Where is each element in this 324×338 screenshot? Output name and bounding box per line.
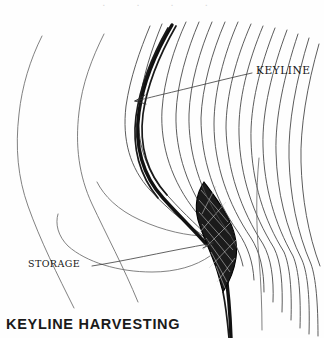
keyline-harvesting-figure: . . . . bbox=[0, 0, 324, 338]
contour-line-right-8 bbox=[276, 34, 309, 334]
annotation-label-keyline: KEYLINE bbox=[256, 64, 311, 76]
storage-leader-line bbox=[92, 243, 213, 266]
figure-caption: KEYLINE HARVESTING bbox=[6, 316, 180, 332]
contour-map-drawing bbox=[0, 0, 324, 338]
contour-line-right-11 bbox=[257, 158, 262, 330]
keyline-valley-line bbox=[135, 25, 231, 338]
storage-pond-body bbox=[196, 182, 236, 292]
annotation-label-storage: STORAGE bbox=[28, 258, 80, 269]
contour-line-left-2 bbox=[78, 34, 138, 302]
contour-line-right-10 bbox=[301, 44, 320, 266]
contour-line-right-9 bbox=[289, 38, 318, 336]
